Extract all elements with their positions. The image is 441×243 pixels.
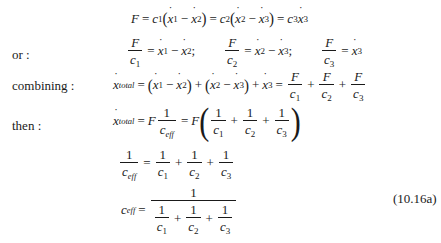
plus: + [195, 77, 202, 93]
fraction: Fc3 [322, 36, 336, 66]
symbol-xdot: x [153, 77, 159, 93]
subscript-eff: eff [128, 171, 137, 181]
symbol-F: F [325, 35, 333, 50]
numerator: 1 [158, 148, 169, 162]
fraction: 1ceff [120, 148, 138, 178]
symbol-xdot: x [259, 11, 265, 27]
symbol-xdot: x [298, 11, 304, 27]
equals: = [181, 113, 188, 129]
symbol-xdot: x [255, 43, 261, 59]
fraction: 1c3 [218, 203, 232, 233]
subscript: 1 [162, 226, 167, 236]
symbol-F: F [148, 113, 156, 129]
symbol-F: F [131, 11, 139, 27]
plus: + [174, 212, 181, 225]
fraction: 1c3 [219, 148, 233, 178]
equals: = [137, 113, 144, 129]
symbol-xdot: x [181, 43, 187, 59]
equals: = [276, 77, 283, 93]
fraction: 1c1 [211, 106, 225, 136]
fraction: 1c1 [156, 148, 170, 178]
equals: = [137, 77, 144, 93]
equals: = [341, 43, 348, 59]
paren: ) [269, 9, 274, 29]
plus: + [262, 113, 269, 129]
numerator: 1 [124, 148, 135, 162]
fraction: Fc2 [225, 36, 239, 66]
minus: − [171, 43, 178, 59]
plus: + [252, 77, 259, 93]
symbol-F: F [131, 35, 139, 50]
paren: ( [199, 102, 209, 140]
compound-fraction: 1 1c1 + 1c2 + 1c3 [151, 186, 237, 233]
equals: = [277, 11, 284, 27]
label-then: then : [12, 118, 41, 134]
plus: + [175, 155, 182, 171]
minus: − [248, 11, 255, 27]
equals: = [142, 11, 149, 27]
fraction: 1c2 [243, 106, 257, 136]
plus: + [339, 77, 346, 93]
subscript: 2 [233, 59, 238, 69]
subscript: 2 [194, 226, 199, 236]
denominator: 1c1 + 1c2 + 1c3 [151, 200, 237, 233]
equals: = [138, 202, 145, 218]
equation-or-1: Fc1 = x1 − x2; [126, 36, 195, 66]
fraction: 1c2 [187, 148, 201, 178]
numerator: 1 [220, 203, 231, 217]
numerator: 1 [188, 186, 199, 200]
minus: − [268, 43, 275, 59]
symbol-xdot: x [210, 77, 216, 93]
subscript: 3 [227, 171, 232, 181]
fraction: 1c3 [275, 106, 289, 136]
subscript: 1 [219, 129, 224, 139]
symbol-xdot: x [113, 77, 119, 93]
equation-then: xtotal = F 1ceff = F ( 1c1 + 1c2 + 1c3 ) [113, 106, 301, 136]
numerator: 1 [245, 106, 256, 120]
symbol-F: F [191, 113, 199, 129]
plus: + [231, 113, 238, 129]
symbol-xdot: x [235, 11, 241, 27]
numerator: 1 [221, 148, 232, 162]
paren: ) [201, 9, 206, 29]
equation-ceff: ceff = 1 1c1 + 1c2 + 1c3 [121, 186, 238, 233]
fraction: 1c2 [186, 203, 200, 233]
equation-force-balance: F = c1 ( x1 − x2 ) = c2 ( x2 − x3 ) = c3… [131, 10, 308, 27]
symbol-F: F [323, 69, 331, 84]
numerator: 1 [188, 203, 199, 217]
paren: ) [244, 75, 249, 95]
subscript: 3 [226, 226, 231, 236]
subscript: 1 [136, 59, 141, 69]
label-or: or : [12, 47, 30, 63]
equals: = [143, 155, 150, 171]
plus: + [207, 155, 214, 171]
plus: + [307, 77, 314, 93]
subscript: 3 [359, 93, 364, 103]
paren: ) [291, 102, 301, 140]
symbol-xdot: x [278, 43, 284, 59]
numerator: 1 [213, 106, 224, 120]
subscript: 2 [195, 171, 200, 181]
subscript: 3 [282, 129, 287, 139]
symbol-xdot: x [191, 11, 197, 27]
equation-number: (10.16a) [393, 191, 437, 207]
minus: − [223, 77, 230, 93]
symbol-c: c [220, 11, 226, 27]
symbol-xdot: x [352, 43, 358, 59]
minus: − [166, 77, 173, 93]
fraction: Fc3 [351, 70, 365, 100]
paren: ) [187, 75, 192, 95]
numerator: 1 [162, 106, 173, 120]
subscript: 1 [163, 171, 168, 181]
symbol-F: F [354, 69, 362, 84]
equals: = [244, 43, 251, 59]
symbol-xdot: x [234, 77, 240, 93]
subscript: 2 [327, 93, 332, 103]
equation-reciprocal: 1ceff = 1c1 + 1c2 + 1c3 [118, 148, 235, 178]
fraction: 1ceff [158, 106, 176, 136]
minus: − [181, 11, 188, 27]
symbol-xdot: x [113, 113, 119, 129]
symbol-xdot: x [168, 11, 174, 27]
plus: + [206, 212, 213, 225]
symbol-xdot: x [176, 77, 182, 93]
